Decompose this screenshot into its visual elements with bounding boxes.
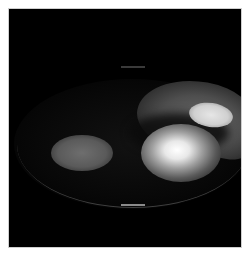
center-blob [141, 124, 221, 182]
image-frame [8, 8, 242, 248]
bottom-marker [121, 204, 145, 206]
top-marker [121, 66, 145, 68]
left-blob [51, 135, 113, 171]
